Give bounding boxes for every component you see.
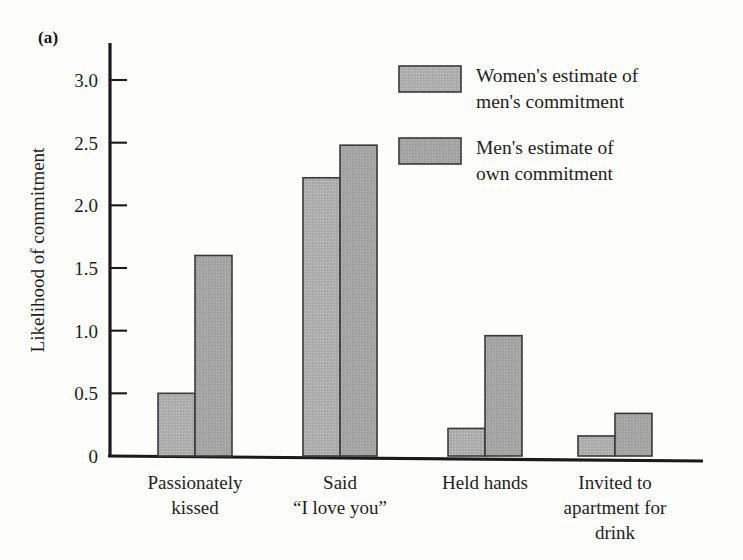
- category-label-4: Invited toapartment fordrink: [564, 472, 668, 543]
- y-tick-label-0: 0: [89, 446, 99, 467]
- category-label-3: Held hands: [442, 472, 528, 493]
- figure-panel: (a) 00.51.01.52.02.53.0 Likeliho: [0, 0, 743, 560]
- y-axis-tick-labels: 00.51.01.52.02.53.0: [74, 70, 98, 467]
- y-axis-title: Likelihood of commitment: [27, 147, 48, 352]
- category-label-2: Said“I love you”: [293, 472, 387, 518]
- bar-g2-s1: [303, 178, 340, 456]
- legend-swatch-1: [399, 66, 461, 92]
- bar-g4-s1: [578, 436, 615, 456]
- bar-g1-s2: [195, 255, 232, 456]
- bar-g3-s2: [485, 336, 522, 456]
- y-tick-label-1.5: 1.5: [74, 258, 98, 279]
- bar-g2-s2: [340, 145, 377, 456]
- bar-g1-s1: [158, 393, 195, 456]
- legend-label-2: Men's estimate ofown commitment: [476, 137, 614, 184]
- bars-group: [158, 145, 652, 456]
- bar-chart: 00.51.01.52.02.53.0 Likelihood of commit…: [0, 0, 743, 560]
- legend-label-1: Women's estimate ofmen's commitment: [476, 65, 639, 112]
- category-labels-group: PassionatelykissedSaid“I love you”Held h…: [148, 472, 668, 543]
- y-axis-ticks: [110, 80, 127, 393]
- bar-g3-s1: [448, 428, 485, 456]
- category-label-1: Passionatelykissed: [148, 472, 243, 518]
- y-tick-label-3.0: 3.0: [74, 70, 98, 91]
- bar-g4-s2: [615, 413, 652, 456]
- y-tick-label-0.5: 0.5: [74, 383, 98, 404]
- y-tick-label-2.5: 2.5: [74, 133, 98, 154]
- legend-swatch-2: [399, 138, 461, 164]
- legend: Women's estimate ofmen's commitmentMen's…: [399, 65, 639, 184]
- y-tick-label-1.0: 1.0: [74, 321, 98, 342]
- y-tick-label-2.0: 2.0: [74, 195, 98, 216]
